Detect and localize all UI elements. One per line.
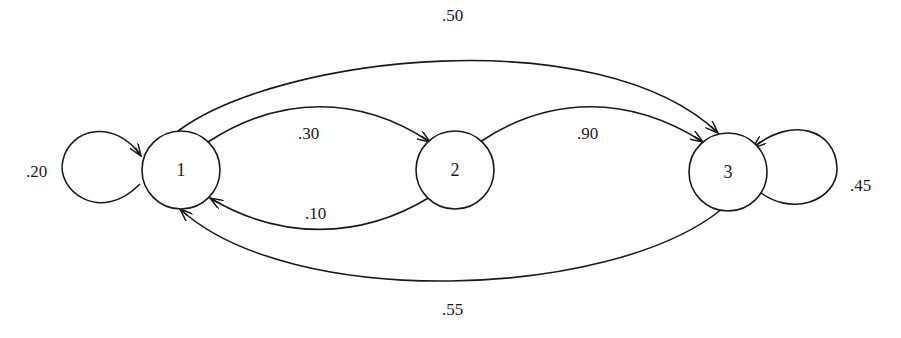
markov-chain-diagram: 1 2 3 .20 .30 .50 .10 .90 .45 .55: [0, 0, 901, 338]
edge-label-3-to-1: .55: [442, 300, 463, 319]
edge-3-to-1: [180, 209, 722, 281]
node-1-label: 1: [177, 160, 186, 180]
edge-label-1-self: .20: [26, 162, 47, 181]
edge-label-1-to-2: .30: [298, 124, 319, 143]
edge-1-to-3: [178, 61, 718, 133]
node-2: 2: [416, 131, 494, 209]
node-3-label: 3: [724, 162, 733, 182]
edge-label-3-self: .45: [850, 176, 871, 195]
edge-label-2-to-3: .90: [577, 124, 598, 143]
edge-label-1-to-3: .50: [442, 6, 463, 25]
edge-label-2-to-1: .10: [305, 204, 326, 223]
node-1: 1: [142, 131, 220, 209]
node-2-label: 2: [451, 160, 460, 180]
edge-1-self-loop: [62, 131, 141, 202]
node-3: 3: [689, 133, 767, 211]
diagram-svg: 1 2 3 .20 .30 .50 .10 .90 .45 .55: [0, 0, 901, 338]
